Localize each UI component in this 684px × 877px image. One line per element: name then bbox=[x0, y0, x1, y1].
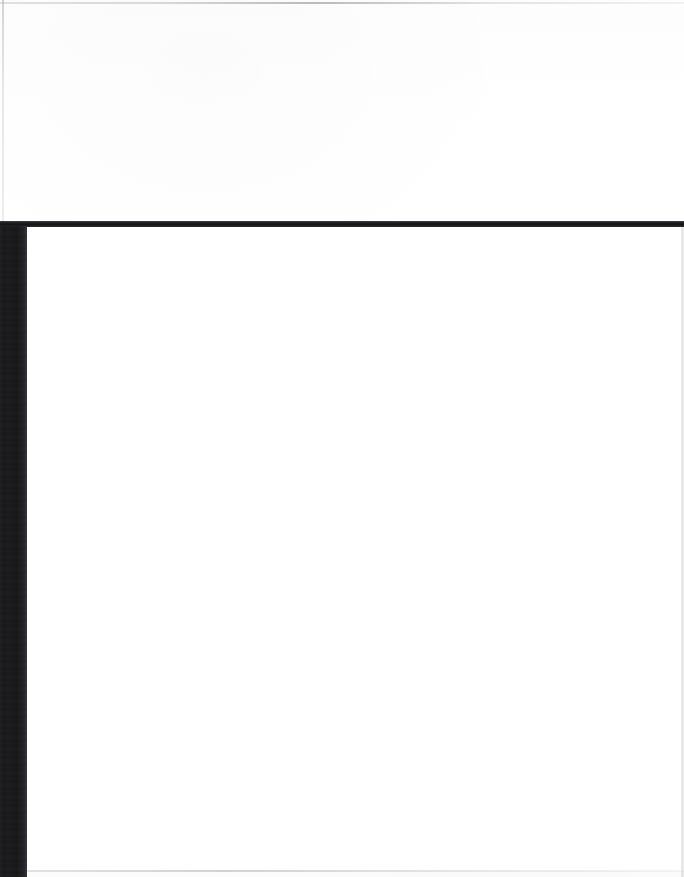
scan-edge-line-bottom bbox=[27, 870, 684, 872]
vertical-frame-band bbox=[0, 226, 27, 877]
scan-edge-line-left bbox=[2, 0, 4, 222]
scan-edge-line-top bbox=[0, 2, 684, 4]
main-content-area bbox=[27, 227, 684, 871]
scanned-page: This page is intentionally blank. bbox=[0, 0, 684, 877]
upper-blank-field bbox=[0, 0, 684, 221]
